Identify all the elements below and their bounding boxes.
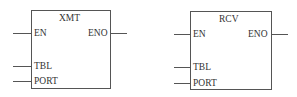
rcv-port-label: PORT — [193, 78, 217, 88]
xmt-eno-label: ENO — [88, 28, 108, 38]
rcv-title: RCV — [219, 14, 239, 24]
rcv-eno-label: ENO — [248, 29, 268, 39]
rcv-en-line — [174, 34, 190, 35]
xmt-eno-line — [111, 33, 127, 34]
rcv-eno-line — [272, 34, 288, 35]
xmt-port-line — [13, 81, 31, 82]
rcv-port-line — [174, 83, 190, 84]
xmt-port-label: PORT — [34, 76, 58, 86]
rcv-tbl-label: TBL — [193, 62, 211, 72]
xmt-tbl-line — [13, 66, 31, 67]
xmt-tbl-label: TBL — [34, 61, 52, 71]
rcv-en-label: EN — [193, 29, 206, 39]
rcv-tbl-line — [174, 67, 190, 68]
xmt-en-line — [13, 33, 31, 34]
xmt-en-label: EN — [34, 28, 47, 38]
xmt-title: XMT — [59, 13, 80, 23]
